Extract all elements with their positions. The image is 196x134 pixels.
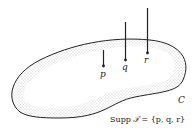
region-label: C	[178, 95, 185, 105]
caption-set: = {p, q, r}	[139, 115, 185, 124]
caption-prefix: Supp	[110, 115, 131, 124]
label-p: p	[100, 69, 106, 79]
label-r: r	[144, 55, 149, 65]
support-diagram: p q r C Supp𝒯 = {p, q, r}	[0, 0, 196, 134]
label-q: q	[122, 62, 128, 72]
support-caption: Supp𝒯 = {p, q, r}	[110, 115, 185, 124]
